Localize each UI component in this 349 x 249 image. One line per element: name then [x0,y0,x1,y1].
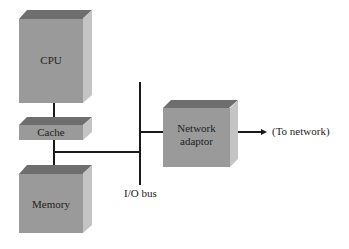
cpu-top-face [19,10,92,19]
memory-bus-line [53,151,141,153]
cache-memory-connector [53,140,55,166]
cache-label: Cache [19,126,83,139]
cache-top-face [19,117,92,125]
bus-adaptor-connector [140,131,164,133]
adaptor-side-face [230,100,238,167]
io-bus-line [139,82,141,185]
memory-side-face [83,165,92,233]
io-bus-label: I/O bus [124,187,157,199]
memory-label: Memory [19,198,83,211]
cpu-label: CPU [19,54,83,67]
adaptor-label: Network adaptor [163,122,230,148]
cpu-cache-connector [53,103,55,118]
adaptor-label-line2: adaptor [163,135,230,148]
cpu-side-face [83,10,92,103]
network-arrow-shaft [238,131,262,133]
memory-top-face [19,165,92,174]
adaptor-label-line1: Network [163,122,230,135]
to-network-label: (To network) [272,125,330,137]
adaptor-top-face [163,100,238,108]
arrow-head-icon [261,129,267,135]
